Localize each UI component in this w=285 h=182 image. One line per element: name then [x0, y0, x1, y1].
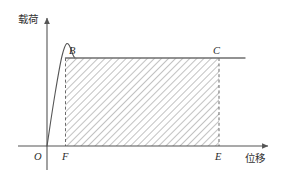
point-label-e: E [214, 151, 222, 162]
figure-canvas: 载荷 位移 O B C F E [0, 0, 285, 182]
point-label-b: B [69, 45, 76, 56]
x-axis-label: 位移 [245, 152, 266, 164]
point-label-c: C [213, 45, 221, 56]
y-axis-label: 载荷 [18, 13, 38, 25]
hatched-area-fbce [66, 58, 220, 146]
point-label-f: F [61, 151, 69, 162]
origin-label: O [34, 151, 42, 162]
load-displacement-figure: 载荷 位移 O B C F E [0, 0, 285, 182]
